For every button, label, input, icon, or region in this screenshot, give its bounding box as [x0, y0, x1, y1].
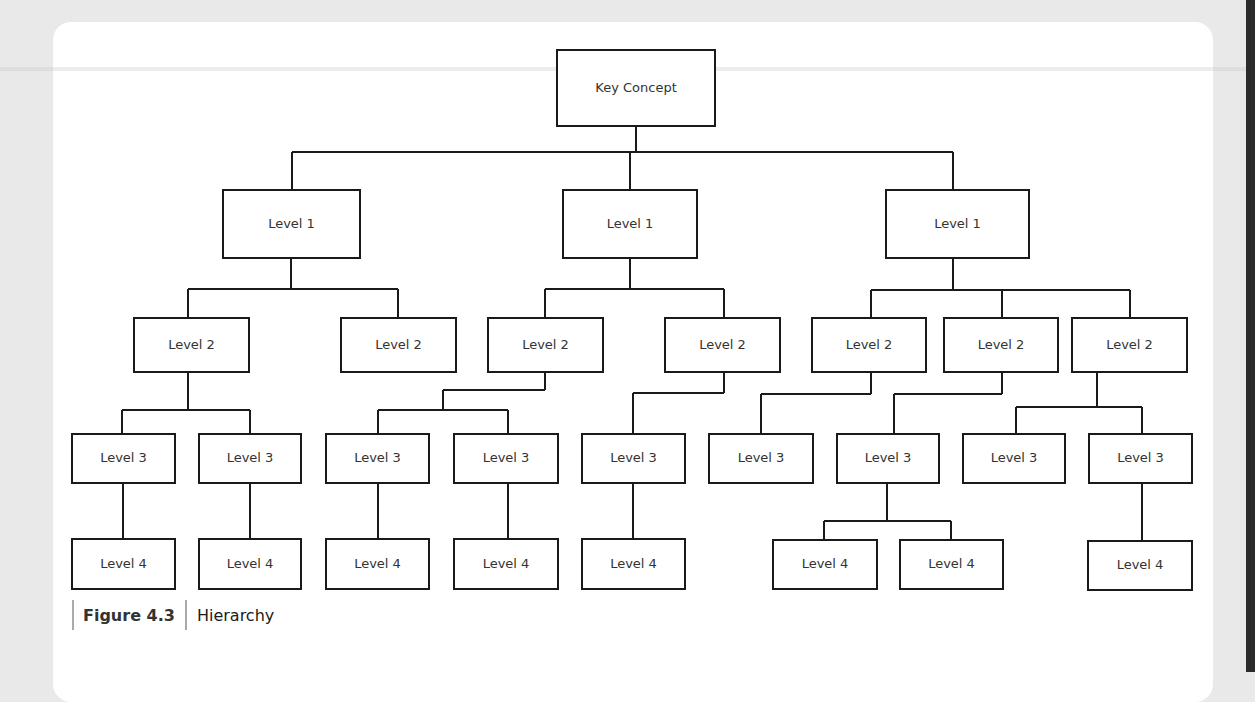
node-a4a: Level 4 [72, 539, 175, 589]
node-label: Level 3 [991, 450, 1038, 465]
connector-line [871, 258, 1130, 318]
connector-line [122, 372, 250, 434]
node-label: Level 3 [100, 450, 147, 465]
node-label: Level 4 [100, 556, 147, 571]
node-c4c: Level 4 [1088, 541, 1192, 590]
node-c1: Level 1 [886, 190, 1029, 258]
node-label: Level 3 [227, 450, 274, 465]
node-label: Level 4 [483, 556, 530, 571]
connector-line [545, 258, 724, 318]
node-c3a: Level 3 [709, 434, 813, 483]
node-label: Level 4 [227, 556, 274, 571]
node-b3a: Level 3 [326, 434, 429, 483]
connector-line [633, 372, 724, 434]
figure-title: Hierarchy [187, 606, 274, 625]
node-a1: Level 1 [223, 190, 360, 258]
node-label: Level 2 [375, 337, 422, 352]
node-c3c: Level 3 [963, 434, 1065, 483]
node-a3a: Level 3 [72, 434, 175, 483]
figure-label: Figure 4.3 [74, 606, 185, 625]
connector-line [1016, 372, 1142, 434]
node-label: Level 3 [1117, 450, 1164, 465]
node-c2c: Level 2 [1072, 318, 1187, 372]
node-label: Level 4 [1117, 557, 1164, 572]
node-c2b: Level 2 [944, 318, 1058, 372]
node-label: Level 1 [607, 216, 654, 231]
node-label: Level 2 [522, 337, 569, 352]
node-b3c: Level 3 [582, 434, 685, 483]
node-label: Level 1 [934, 216, 981, 231]
node-label: Level 2 [846, 337, 893, 352]
node-k: Key Concept [557, 50, 715, 126]
node-b2a: Level 2 [488, 318, 603, 372]
node-b1: Level 1 [563, 190, 697, 258]
node-c3d: Level 3 [1089, 434, 1192, 483]
node-b4a: Level 4 [326, 539, 429, 589]
node-c4b: Level 4 [900, 540, 1003, 589]
node-b4c: Level 4 [582, 539, 685, 589]
node-c3b: Level 3 [837, 434, 939, 483]
connector-line [894, 372, 1002, 434]
connector-line [292, 126, 953, 190]
node-label: Level 4 [354, 556, 401, 571]
node-label: Level 2 [978, 337, 1025, 352]
node-label: Level 3 [610, 450, 657, 465]
node-label: Level 4 [928, 556, 975, 571]
node-label: Level 3 [865, 450, 912, 465]
connector-line [378, 372, 545, 434]
node-label: Level 3 [354, 450, 401, 465]
node-label: Level 4 [802, 556, 849, 571]
figure-caption: Figure 4.3 Hierarchy [72, 600, 274, 630]
connector-line [123, 483, 633, 539]
node-c2a: Level 2 [812, 318, 926, 372]
node-a2b: Level 2 [341, 318, 456, 372]
node-b3b: Level 3 [454, 434, 558, 483]
node-label: Level 4 [610, 556, 657, 571]
node-c4a: Level 4 [773, 540, 877, 589]
node-b2b: Level 2 [665, 318, 780, 372]
node-b4b: Level 4 [454, 539, 558, 589]
node-label: Level 2 [699, 337, 746, 352]
node-label: Level 3 [483, 450, 530, 465]
connector-line [188, 258, 398, 318]
node-label: Key Concept [595, 80, 676, 95]
node-label: Level 2 [1106, 337, 1153, 352]
node-a2a: Level 2 [134, 318, 249, 372]
node-label: Level 2 [168, 337, 215, 352]
node-label: Level 3 [738, 450, 785, 465]
node-a3b: Level 3 [199, 434, 301, 483]
connector-line [761, 372, 871, 434]
node-label: Level 1 [268, 216, 315, 231]
node-a4b: Level 4 [199, 539, 301, 589]
connector-line [824, 483, 951, 540]
